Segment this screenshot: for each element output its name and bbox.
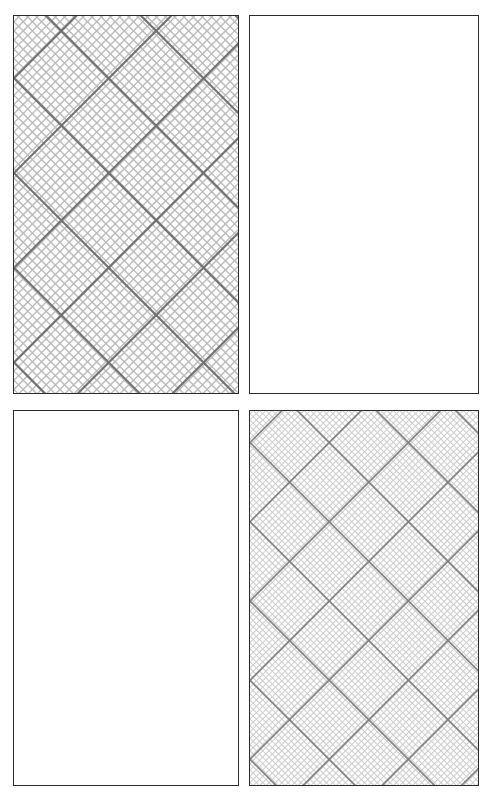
panel-top-right	[249, 15, 479, 394]
panel-bottom-left	[13, 410, 239, 786]
hatch-svg-top-right	[250, 16, 478, 393]
hatch-fill-top-left	[14, 16, 238, 393]
panel-bottom-right	[249, 410, 479, 786]
blank-fill-top-right	[250, 16, 478, 393]
hatch-svg-bottom-right	[250, 411, 478, 785]
figure-canvas	[0, 0, 494, 801]
hatch-svg-bottom-left	[14, 411, 238, 785]
blank-fill-bottom-left	[14, 411, 238, 785]
hatch-svg-top-left	[14, 16, 238, 393]
hatch-fill-bottom-right	[250, 411, 478, 785]
panel-top-left	[13, 15, 239, 394]
